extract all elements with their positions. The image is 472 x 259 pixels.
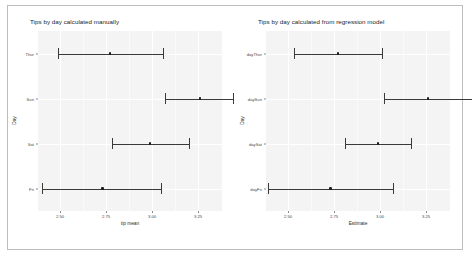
x-axis-tick-mark xyxy=(426,211,427,213)
gridline-vertical xyxy=(288,31,289,211)
y-axis-tick-label: dayFri xyxy=(250,186,262,191)
plot-area-manual xyxy=(38,31,222,211)
error-bar-cap-high xyxy=(161,183,162,194)
point-estimate-marker xyxy=(199,97,201,99)
gridline-vertical-minor xyxy=(83,31,84,211)
gridline-vertical-minor xyxy=(129,31,130,211)
y-axis-tick-label: Sat xyxy=(28,141,34,146)
panel-title-regression: Tips by day calculated from regression m… xyxy=(258,18,384,25)
panel-manual: Tips by day calculated manually Day tip … xyxy=(8,6,236,249)
x-axis-tick-label: 3.25 xyxy=(422,214,430,219)
y-axis-tick-label: daySun xyxy=(248,96,262,101)
x-axis-tick-label: 2.50 xyxy=(56,214,64,219)
y-axis-tick-mark xyxy=(264,143,266,144)
gridline-vertical-minor xyxy=(175,31,176,211)
panel-title-manual: Tips by day calculated manually xyxy=(30,18,119,25)
y-axis-tick-mark xyxy=(264,188,266,189)
x-axis-tick-mark xyxy=(380,211,381,213)
y-axis-tick-mark xyxy=(36,143,38,144)
figure-screenshot: Tips by day calculated manually Day tip … xyxy=(0,0,472,259)
x-axis-tick-label: 3.25 xyxy=(194,214,202,219)
y-axis-tick-label: Sun xyxy=(27,96,34,101)
error-bar-cap-high xyxy=(382,48,383,59)
gridline-vertical xyxy=(198,31,199,211)
error-bar-cap-low xyxy=(268,183,269,194)
x-axis-tick-label: 3.00 xyxy=(376,214,384,219)
error-bar-cap-low xyxy=(165,93,166,104)
figure-frame: Tips by day calculated manually Day tip … xyxy=(7,5,463,250)
y-axis-tick-label: daySat xyxy=(249,141,262,146)
gridline-vertical xyxy=(426,31,427,211)
y-axis-title-manual: Day xyxy=(12,116,17,125)
x-axis-tick-mark xyxy=(198,211,199,213)
y-axis-tick-mark xyxy=(264,53,266,54)
y-axis-tick-mark xyxy=(264,98,266,99)
x-axis-tick-label: 2.50 xyxy=(284,214,292,219)
error-bar-cap-low xyxy=(42,183,43,194)
x-axis-tick-mark xyxy=(334,211,335,213)
point-estimate-marker xyxy=(427,97,429,99)
x-axis-tick-mark xyxy=(106,211,107,213)
error-bar-cap-high xyxy=(411,138,412,149)
x-axis-title-regression: Estimate xyxy=(349,221,368,226)
error-bar-cap-high xyxy=(163,48,164,59)
gridline-vertical xyxy=(334,31,335,211)
y-axis-tick-mark xyxy=(36,188,38,189)
error-bar-cap-low xyxy=(294,48,295,59)
x-axis-tick-label: 2.75 xyxy=(330,214,338,219)
error-bar-cap-low xyxy=(345,138,346,149)
y-axis-tick-mark xyxy=(36,53,38,54)
error-bar-cap-high xyxy=(233,93,234,104)
y-axis-tick-label: Thur xyxy=(25,51,34,56)
point-estimate-marker xyxy=(109,52,111,54)
error-bar-cap-low xyxy=(112,138,113,149)
x-axis-tick-label: 2.75 xyxy=(102,214,110,219)
gridline-vertical-minor xyxy=(311,31,312,211)
x-axis-tick-mark xyxy=(152,211,153,213)
error-bar-cap-low xyxy=(384,93,385,104)
gridline-vertical xyxy=(152,31,153,211)
y-axis-tick-label: dayThur xyxy=(247,51,262,56)
error-bar-cap-high xyxy=(393,183,394,194)
y-axis-tick-mark xyxy=(36,98,38,99)
y-axis-tick-label: Fri xyxy=(29,186,34,191)
error-bar-cap-low xyxy=(58,48,59,59)
x-axis-tick-mark xyxy=(288,211,289,213)
point-estimate-marker xyxy=(337,52,339,54)
y-axis-title-regression: Day xyxy=(240,116,245,125)
point-estimate-marker xyxy=(329,187,331,189)
gridline-vertical-minor xyxy=(403,31,404,211)
error-bar-cap-high xyxy=(189,138,190,149)
x-axis-title-manual: tip mean xyxy=(121,221,139,226)
gridline-vertical xyxy=(60,31,61,211)
gridline-vertical xyxy=(106,31,107,211)
x-axis-tick-label: 3.00 xyxy=(148,214,156,219)
plot-area-regression xyxy=(266,31,450,211)
gridline-vertical-minor xyxy=(357,31,358,211)
point-estimate-marker xyxy=(101,187,103,189)
panel-regression: Tips by day calculated from regression m… xyxy=(236,6,464,249)
x-axis-tick-mark xyxy=(60,211,61,213)
